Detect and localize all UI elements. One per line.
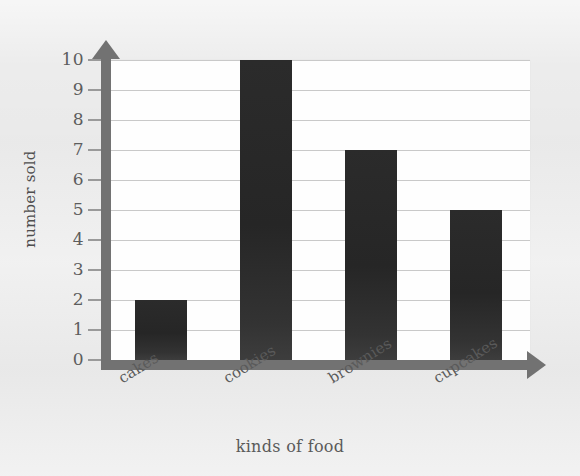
bars-layer xyxy=(110,60,530,360)
y-axis-tick-label: 7 xyxy=(58,139,84,159)
bar xyxy=(345,150,397,360)
bar xyxy=(240,60,292,360)
y-axis-tick-label: 2 xyxy=(58,289,84,309)
y-axis-tick-label: 8 xyxy=(58,109,84,129)
y-axis-tick-mark xyxy=(88,59,101,61)
y-axis-tick-mark xyxy=(88,89,101,91)
y-axis-tick-mark xyxy=(88,269,101,271)
y-axis-line xyxy=(101,56,111,366)
y-axis-tick-mark xyxy=(88,209,101,211)
y-axis-tick-label: 0 xyxy=(58,349,84,369)
y-axis-tick-mark xyxy=(88,149,101,151)
y-axis-tick-mark xyxy=(88,329,101,331)
y-axis-tick-mark xyxy=(88,299,101,301)
y-axis-title: number sold xyxy=(21,139,39,259)
y-axis-tick-mark xyxy=(88,359,101,361)
plot-area xyxy=(110,60,530,360)
x-axis-title: kinds of food xyxy=(160,437,420,456)
y-axis-tick-label: 9 xyxy=(58,79,84,99)
bar-chart-figure: 012345678910 cakescookiesbrowniescupcake… xyxy=(0,0,580,476)
y-axis-arrow-icon xyxy=(92,40,120,59)
y-axis-tick-mark xyxy=(88,119,101,121)
y-axis-tick-label: 4 xyxy=(58,229,84,249)
y-axis-tick-label: 1 xyxy=(58,319,84,339)
y-axis-tick-label: 5 xyxy=(58,199,84,219)
y-axis-tick-label: 3 xyxy=(58,259,84,279)
y-axis-tick-label: 6 xyxy=(58,169,84,189)
x-axis-arrow-icon xyxy=(527,351,546,379)
y-axis-tick-mark xyxy=(88,179,101,181)
y-axis-tick-label: 10 xyxy=(58,49,84,69)
y-axis-tick-mark xyxy=(88,239,101,241)
